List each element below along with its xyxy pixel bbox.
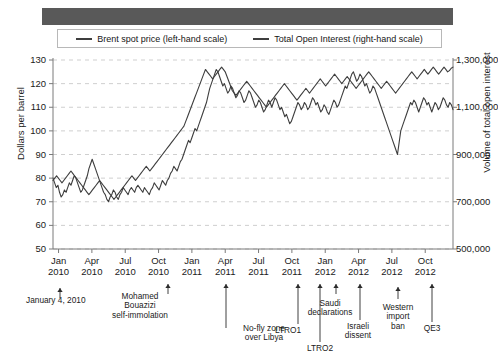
event-arrow-no-fly-zone (223, 284, 228, 328)
annotation-mohamed-bouazizi: MohamedBouaziziself-immolation (97, 292, 183, 320)
series-line-total-open-interest (53, 67, 453, 199)
x-tick-year: 2012 (405, 267, 445, 278)
y-tick-right-0: 1,300,000 (456, 55, 498, 65)
data-series (53, 67, 453, 202)
event-arrow-western-import-ban (395, 287, 400, 299)
y-tick-left-70: 70 (18, 197, 46, 207)
annotation-qe3: QE3 (417, 324, 447, 333)
plot-canvas (0, 0, 498, 364)
y-tick-right-3: 700,000 (456, 197, 490, 207)
annotation-israeli-dissent: Israelidissent (337, 322, 379, 341)
y-tick-left-120: 120 (18, 79, 46, 89)
y-axis-right-title: Volume of total open interest (481, 28, 492, 198)
y-tick-left-80: 80 (18, 173, 46, 183)
y-tick-left-60: 60 (18, 220, 46, 230)
x-tick-month: Oct (405, 256, 445, 267)
annotation-western-import-ban: Westernimportban (376, 303, 420, 331)
y-tick-right-1: 1,100,000 (456, 102, 498, 112)
x-tick-Oct-2012: Oct2012 (405, 256, 445, 277)
axis-lines (53, 58, 453, 249)
chart-figure: Brent spot price (left-hand scale) Total… (0, 0, 498, 364)
annotation-ltro1: LTRO1 (271, 326, 305, 335)
y-tick-left-90: 90 (18, 150, 46, 160)
y-tick-left-100: 100 (18, 126, 46, 136)
y-tick-right-2: 900,000 (456, 150, 490, 160)
annotation-ltro2: LTRO2 (303, 344, 337, 353)
gridlines (53, 60, 453, 249)
annotation-jan-4-2010: January 4, 2010 (26, 296, 86, 305)
event-arrow-qe3 (429, 284, 434, 322)
y-tick-left-130: 130 (18, 55, 46, 65)
y-tick-left-50: 50 (18, 244, 46, 254)
y-tick-left-110: 110 (18, 102, 46, 112)
y-tick-right-4: 500,000 (456, 244, 490, 254)
event-arrow-saudi-declarations (333, 284, 338, 294)
annotation-saudi-declarations: Saudideclarations (297, 299, 363, 318)
